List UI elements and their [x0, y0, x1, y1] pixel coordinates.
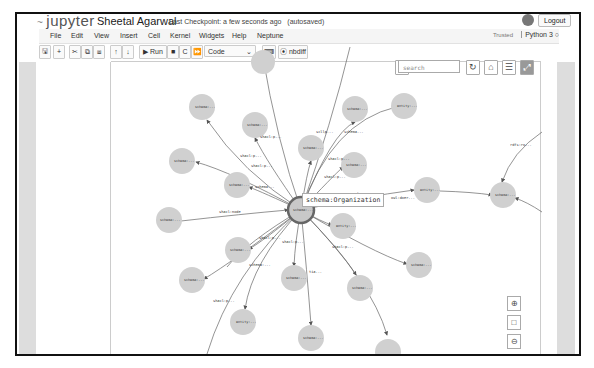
node-label: entity:... [236, 320, 256, 324]
jupyter-window: ~jupyter Sheetal Agarwal Last Checkpoint… [15, 12, 581, 356]
expand-icon: ⤢ [524, 62, 531, 72]
center-node-label: schema:... [293, 208, 313, 212]
edge-label: shacl:p... [332, 245, 354, 249]
edge-label: rdfs:ro... [510, 143, 532, 147]
edge-label: shacl:p... [282, 240, 304, 244]
edge-label: scllp... [316, 130, 333, 134]
edge-label: shacl:p... [260, 135, 282, 139]
node-label: schema:... [286, 276, 306, 280]
edge-label: owl:doer... [391, 196, 415, 200]
zoom-out-button[interactable]: ⊖ [507, 334, 521, 349]
edge-label: shacl:p... [251, 164, 273, 168]
edge-labels: shacl:p... scllp... schema... shacl:p...… [213, 130, 532, 303]
lock-button[interactable]: ⌂ [484, 60, 498, 75]
edge-label: schema... [255, 185, 274, 189]
node-label: schema:... [303, 336, 323, 340]
node-label: schema:... [230, 248, 250, 252]
node-label: schema:... [229, 183, 249, 187]
zoom-in-icon: ⊕ [511, 299, 518, 308]
node-tooltip: schema:Organization [302, 193, 384, 207]
fullscreen-button[interactable]: ⤢ [520, 60, 534, 75]
list-view-button[interactable]: ☰ [502, 60, 516, 75]
node-label: schema:... [174, 159, 194, 163]
edge-label: shacl:p... [324, 175, 346, 179]
edge-label: shacl:p... [259, 236, 281, 240]
edge-label: schema... [344, 130, 363, 134]
edge-label: shacl:p... [213, 299, 235, 303]
edge-label: shacl:p... [328, 157, 350, 161]
node-label: schema:... [247, 123, 267, 127]
refresh-icon: ↻ [469, 62, 477, 72]
graph-search-input[interactable]: search [398, 60, 460, 73]
node-label: schema:... [195, 105, 215, 109]
node-label: schema:... [495, 193, 515, 197]
node-label: entity:... [397, 104, 417, 108]
edge-label: shacl:node [219, 210, 241, 214]
node-label: schema:... [346, 163, 366, 167]
node-label: schema:... [184, 278, 204, 282]
fit-square-icon: □ [512, 318, 517, 327]
node-label: schema:... [352, 286, 372, 290]
node-label: entity:... [336, 224, 356, 228]
zoom-out-icon: ⊖ [511, 337, 518, 346]
list-icon: ☰ [505, 62, 513, 72]
node[interactable] [375, 339, 401, 354]
fit-view-button[interactable]: □ [507, 315, 521, 330]
zoom-in-button[interactable]: ⊕ [507, 296, 521, 311]
node-label: schema:... [411, 263, 431, 267]
unlock-icon: ⌂ [488, 62, 493, 72]
edge-label: schema:... [249, 263, 271, 267]
node-label: schema:... [160, 218, 180, 222]
node[interactable] [251, 50, 275, 74]
edge-label: shacl:p... [240, 154, 262, 158]
node-label: entity:... [420, 188, 440, 192]
edge-label: tia... [309, 270, 322, 274]
refresh-button[interactable]: ↻ [466, 60, 480, 75]
node-label: schema:... [303, 146, 323, 150]
node-label: schema:... [347, 107, 367, 111]
